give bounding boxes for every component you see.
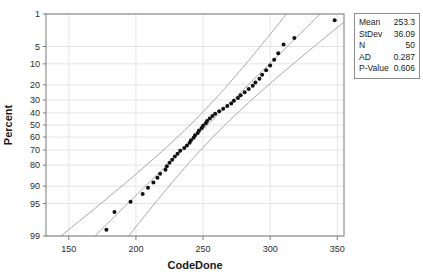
y-tick-label: 70 — [30, 145, 40, 155]
data-point — [178, 149, 182, 153]
y-tick-label: 80 — [30, 160, 40, 170]
data-point — [276, 51, 280, 55]
statistics-row: P-Value0.606 — [359, 63, 415, 75]
data-point — [146, 186, 150, 190]
x-tick-label: 300 — [263, 244, 278, 254]
statistics-label: N — [359, 40, 392, 52]
data-point — [168, 161, 172, 165]
statistics-value: 36.09 — [392, 29, 415, 41]
statistics-summary-box: Mean253.3StDev36.09N50AD0.287P-Value0.60… — [354, 13, 420, 79]
data-point — [282, 43, 286, 47]
data-point — [232, 99, 236, 103]
y-tick-label: 1 — [35, 9, 40, 19]
y-tick-label: 10 — [30, 59, 40, 69]
data-point — [165, 164, 169, 168]
data-point — [257, 77, 261, 81]
y-tick-label: 30 — [30, 95, 40, 105]
x-axis-ticks: 150200250300350 — [61, 236, 344, 254]
statistics-table: Mean253.3StDev36.09N50AD0.287P-Value0.60… — [359, 17, 415, 75]
probability-plot-figure: 999590807060504030201051 150200250300350… — [0, 0, 423, 277]
data-point — [158, 172, 162, 176]
y-axis-title: Percent — [2, 104, 14, 145]
statistics-label: StDev — [359, 29, 392, 41]
y-tick-label: 20 — [30, 80, 40, 90]
x-axis-title: CodeDone — [168, 259, 223, 271]
y-axis-ticks: 999590807060504030201051 — [30, 9, 46, 241]
data-point — [264, 68, 268, 72]
data-point — [141, 192, 145, 196]
grid-lines — [46, 14, 344, 236]
confidence-band-upper — [129, 22, 344, 236]
statistics-label: Mean — [359, 17, 392, 29]
data-point — [247, 87, 251, 91]
ci-upper-path — [129, 22, 344, 236]
data-point — [272, 58, 276, 62]
y-tick-label: 99 — [30, 231, 40, 241]
y-tick-label: 50 — [30, 120, 40, 130]
data-point — [217, 109, 221, 113]
statistics-value: 253.3 — [392, 17, 415, 29]
data-point — [239, 93, 243, 97]
data-point — [213, 112, 217, 116]
y-tick-label: 95 — [30, 199, 40, 209]
statistics-value: 50 — [392, 40, 415, 52]
data-point — [292, 36, 296, 40]
x-tick-label: 150 — [61, 244, 76, 254]
x-tick-label: 350 — [330, 244, 345, 254]
data-point — [163, 168, 167, 172]
statistics-row: AD0.287 — [359, 52, 415, 64]
data-point — [268, 63, 272, 67]
data-point — [129, 200, 133, 204]
data-point — [251, 84, 255, 88]
data-point — [104, 228, 108, 232]
data-point — [333, 18, 337, 22]
data-point — [155, 176, 159, 180]
data-point — [225, 104, 229, 108]
x-tick-label: 200 — [128, 244, 143, 254]
statistics-label: P-Value — [359, 63, 392, 75]
statistics-row: Mean253.3 — [359, 17, 415, 29]
x-tick-label: 250 — [196, 244, 211, 254]
data-point — [243, 90, 247, 94]
statistics-value: 0.287 — [392, 52, 415, 64]
statistics-row: N50 — [359, 40, 415, 52]
y-tick-label: 60 — [30, 132, 40, 142]
statistics-value: 0.606 — [392, 63, 415, 75]
data-point — [253, 80, 257, 84]
y-tick-label: 40 — [30, 108, 40, 118]
data-point — [221, 107, 225, 111]
data-point — [260, 73, 264, 77]
data-point — [151, 181, 155, 185]
statistics-row: StDev36.09 — [359, 29, 415, 41]
data-point — [112, 210, 116, 214]
data-point — [170, 158, 174, 162]
statistics-label: AD — [359, 52, 392, 64]
y-tick-label: 90 — [30, 181, 40, 191]
y-tick-label: 5 — [35, 42, 40, 52]
